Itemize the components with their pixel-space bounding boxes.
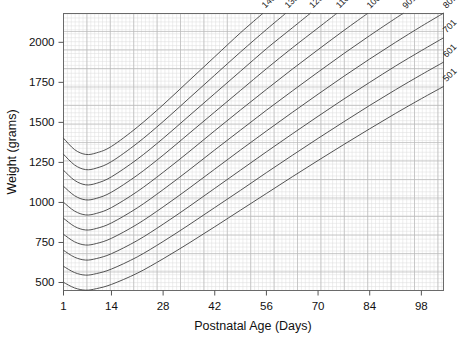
y-axis-title: Weight (grams)	[5, 109, 19, 194]
x-tick-label: 84	[363, 300, 376, 312]
x-tick-label: 14	[105, 300, 118, 312]
x-axis-title: Postnatal Age (Days)	[194, 319, 311, 333]
x-tick-label: 98	[415, 300, 428, 312]
x-tick-label: 1	[60, 300, 66, 312]
x-tick-label: 28	[157, 300, 170, 312]
y-tick-label: 1000	[29, 196, 55, 208]
x-tick-label: 56	[260, 300, 273, 312]
y-tick-label: 1750	[29, 76, 55, 88]
y-tick-label: 1500	[29, 116, 55, 128]
y-tick-label: 500	[35, 276, 54, 288]
x-tick-label: 70	[312, 300, 325, 312]
growth-chart: 14011301120111011001901801701601501 1142…	[0, 0, 458, 338]
x-tick-label: 42	[208, 300, 221, 312]
y-tick-label: 750	[35, 236, 54, 248]
chart-canvas: 14011301120111011001901801701601501 1142…	[0, 0, 458, 338]
y-tick-label: 1250	[29, 156, 55, 168]
y-tick-label: 2000	[29, 36, 55, 48]
chart-background	[0, 0, 458, 338]
